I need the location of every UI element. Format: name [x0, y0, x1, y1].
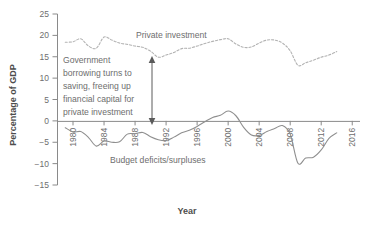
annotation-line-1: Government — [63, 55, 111, 65]
y-axis-ticks — [53, 14, 58, 185]
y-tick-label: −15 — [35, 180, 50, 190]
x-tick-label: 1988 — [130, 128, 140, 147]
x-axis-tick-labels: 1980198419881992199620002004200820122016 — [68, 128, 357, 147]
y-axis: −15−10−50510152025 — [35, 9, 58, 190]
budget-deficit-label: Budget deficits/surpluses — [110, 155, 206, 165]
y-tick-label: −5 — [39, 137, 49, 147]
gdp-investment-deficit-chart: Percentage of GDP Year −15−10−5051015202… — [0, 0, 374, 230]
x-tick-label: 1996 — [192, 128, 202, 147]
y-axis-title: Percentage of GDP — [8, 64, 18, 146]
y-tick-label: −10 — [35, 159, 50, 169]
annotation-note: Government borrowing turns to saving, fr… — [63, 55, 134, 117]
y-tick-label: 15 — [40, 52, 50, 62]
y-tick-label: 0 — [44, 116, 49, 126]
chart-container: Percentage of GDP Year −15−10−5051015202… — [0, 0, 374, 230]
y-tick-label: 5 — [44, 95, 49, 105]
x-tick-label: 2000 — [223, 128, 233, 147]
double-arrow-icon — [149, 56, 156, 125]
y-axis-tick-labels: −15−10−50510152025 — [35, 9, 50, 190]
x-tick-label: 2004 — [254, 128, 264, 147]
annotation-line-4: financial capital for — [63, 94, 134, 104]
x-tick-label: 2008 — [285, 128, 295, 147]
x-axis-title: Year — [177, 206, 197, 216]
y-tick-label: 10 — [40, 73, 50, 83]
x-axis: 1980198419881992199620002004200820122016 — [58, 121, 361, 147]
private-investment-label: Private investment — [136, 30, 207, 40]
y-tick-label: 25 — [40, 9, 50, 19]
annotation-line-2: borrowing turns to — [63, 68, 132, 78]
x-tick-label: 1992 — [161, 128, 171, 147]
annotation-line-5: private investment — [63, 107, 133, 117]
y-tick-label: 20 — [40, 30, 50, 40]
x-tick-label: 2016 — [347, 128, 357, 147]
annotation-line-3: saving, freeing up — [63, 81, 131, 91]
